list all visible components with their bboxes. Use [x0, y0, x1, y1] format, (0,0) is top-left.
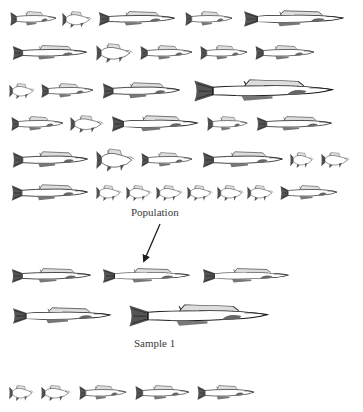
- fish-icon: [280, 183, 338, 203]
- fish-icon: [140, 43, 193, 63]
- fish-sampling-diagram: Population Sample 1: [0, 0, 363, 412]
- fish-icon: [135, 383, 190, 403]
- fish-icon: [243, 8, 345, 30]
- fish-icon: [126, 184, 152, 202]
- fish-icon: [200, 43, 248, 63]
- fish-icon: [9, 82, 35, 100]
- fish-icon: [255, 43, 315, 63]
- fish-icon: [197, 383, 255, 403]
- fish-icon: [96, 147, 135, 173]
- fish-icon: [185, 9, 233, 29]
- fish-icon: [202, 266, 290, 286]
- fish-icon: [247, 184, 274, 202]
- fish-icon: [193, 76, 335, 106]
- fish-icon: [321, 151, 350, 169]
- fish-icon: [290, 151, 314, 169]
- fish-icon: [102, 80, 181, 102]
- fish-icon: [96, 184, 122, 202]
- fish-icon: [9, 384, 34, 402]
- fish-icon: [111, 113, 199, 135]
- fish-icon: [207, 114, 248, 134]
- fish-icon: [41, 384, 71, 402]
- fish-icon: [96, 42, 133, 64]
- fish-icon: [141, 150, 193, 170]
- fish-icon: [102, 266, 191, 286]
- fish-icon: [11, 182, 89, 204]
- fish-icon: [202, 149, 284, 171]
- fish-icon: [70, 114, 104, 134]
- fish-icon: [62, 10, 92, 29]
- fish-icon: [256, 114, 333, 134]
- fish-icon: [98, 9, 176, 29]
- fish-icon: [12, 305, 112, 327]
- fish-icon: [11, 266, 92, 286]
- fish-icon: [41, 81, 94, 101]
- fish-icon: [12, 43, 88, 63]
- fish-icon: [10, 9, 57, 29]
- sample-1-label: Sample 1: [134, 337, 175, 349]
- fish-icon: [156, 184, 183, 202]
- fish-icon: [187, 184, 213, 202]
- fish-icon: [11, 114, 64, 134]
- fish-icon: [217, 184, 244, 202]
- fish-icon: [12, 149, 89, 171]
- fish-icon: [79, 383, 127, 403]
- fish-icon: [128, 301, 270, 331]
- population-label: Population: [131, 206, 179, 218]
